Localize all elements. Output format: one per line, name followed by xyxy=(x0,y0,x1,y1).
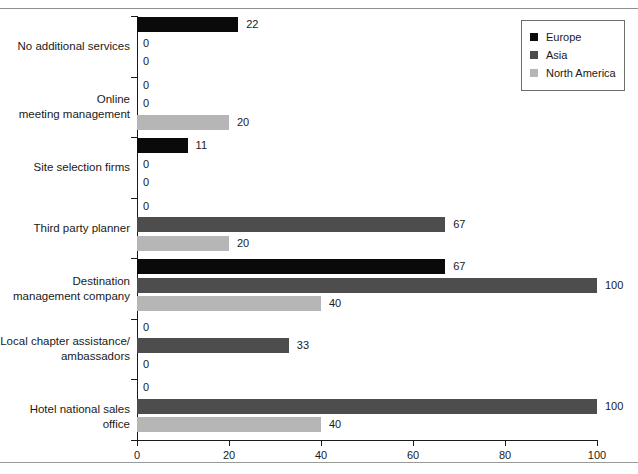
bar-value-label: 67 xyxy=(453,218,465,230)
bar-north-america[interactable] xyxy=(137,296,321,311)
x-axis-tick-label: 100 xyxy=(588,449,606,461)
bar-value-label: 11 xyxy=(196,139,207,151)
legend-swatch-icon xyxy=(530,51,538,59)
legend-label: Europe xyxy=(546,31,581,43)
x-axis-tick xyxy=(229,441,230,446)
category-label: Destination management company xyxy=(13,274,130,304)
x-axis-tick-label: 80 xyxy=(499,449,511,461)
legend-item-north-america[interactable]: North America xyxy=(522,64,624,82)
bar-europe[interactable] xyxy=(137,138,188,153)
bar-europe[interactable] xyxy=(137,259,445,274)
bar-north-america[interactable] xyxy=(137,417,321,432)
bar-value-label: 20 xyxy=(237,116,249,128)
x-axis-tick-label: 40 xyxy=(315,449,327,461)
legend-swatch-icon xyxy=(530,33,538,41)
bar-value-label: 100 xyxy=(605,400,623,412)
page-rule-top xyxy=(0,8,638,9)
legend-label: Asia xyxy=(546,49,567,61)
bar-row: 0 xyxy=(137,357,597,372)
category-label: Local chapter assistance/ ambassadors xyxy=(0,334,130,364)
bar-row: 67 xyxy=(137,217,597,232)
bar-row: 40 xyxy=(137,417,597,432)
bar-north-america[interactable] xyxy=(137,115,229,130)
bar-row: 0 xyxy=(137,157,597,172)
bar-row: 67 xyxy=(137,259,597,274)
category-label: Hotel national sales office xyxy=(0,402,130,432)
bar-value-label: 0 xyxy=(143,381,149,393)
category-label: Site selection firms xyxy=(33,160,130,175)
legend-item-europe[interactable]: Europe xyxy=(522,28,624,46)
bar-row: 0 xyxy=(137,380,597,395)
bar-value-label: 0 xyxy=(143,358,149,370)
x-axis-tick-label: 20 xyxy=(223,449,235,461)
bar-row: 100 xyxy=(137,399,597,414)
bar-value-label: 0 xyxy=(143,176,149,188)
bar-asia[interactable] xyxy=(137,399,597,414)
category-label: Online meeting management xyxy=(19,92,130,122)
bar-row: 0 xyxy=(137,199,597,214)
bar-value-label: 0 xyxy=(143,97,149,109)
bar-value-label: 0 xyxy=(143,37,149,49)
category-label: No additional services xyxy=(17,39,130,54)
bar-value-label: 40 xyxy=(329,418,341,430)
x-axis-tick xyxy=(505,441,506,446)
bar-value-label: 22 xyxy=(246,18,258,30)
bar-north-america[interactable] xyxy=(137,236,229,251)
bar-value-label: 0 xyxy=(143,79,149,91)
bar-value-label: 0 xyxy=(143,55,149,67)
bar-row: 0 xyxy=(137,320,597,335)
bar-value-label: 20 xyxy=(237,237,249,249)
bar-europe[interactable] xyxy=(137,17,238,32)
bar-row: 11 xyxy=(137,138,597,153)
x-axis-tick xyxy=(137,441,138,446)
bar-row: 0 xyxy=(137,96,597,111)
legend-label: North America xyxy=(546,67,616,79)
bar-value-label: 100 xyxy=(605,279,623,291)
x-axis-tick xyxy=(597,441,598,446)
bar-row: 33 xyxy=(137,338,597,353)
x-axis-tick xyxy=(321,441,322,446)
bar-value-label: 40 xyxy=(329,297,341,309)
bar-row: 100 xyxy=(137,278,597,293)
bar-asia[interactable] xyxy=(137,278,597,293)
bar-value-label: 33 xyxy=(297,339,309,351)
x-axis-tick-label: 0 xyxy=(134,449,140,461)
bar-value-label: 0 xyxy=(143,200,149,212)
category-label: Third party planner xyxy=(33,221,130,236)
chart-legend: EuropeAsiaNorth America xyxy=(521,20,625,91)
bar-value-label: 67 xyxy=(453,260,465,272)
x-axis-tick xyxy=(413,441,414,446)
bar-row: 20 xyxy=(137,236,597,251)
x-axis-tick-label: 60 xyxy=(407,449,419,461)
bar-row: 0 xyxy=(137,175,597,190)
bar-asia[interactable] xyxy=(137,217,445,232)
x-axis-line xyxy=(137,440,598,441)
bar-row: 20 xyxy=(137,115,597,130)
bar-row: 40 xyxy=(137,296,597,311)
chart-page: No additional servicesOnline meeting man… xyxy=(0,0,638,474)
bar-asia[interactable] xyxy=(137,338,289,353)
bar-value-label: 0 xyxy=(143,321,149,333)
bar-value-label: 0 xyxy=(143,158,149,170)
legend-swatch-icon xyxy=(530,69,538,77)
page-rule-bottom xyxy=(0,462,638,463)
legend-item-asia[interactable]: Asia xyxy=(522,46,624,64)
